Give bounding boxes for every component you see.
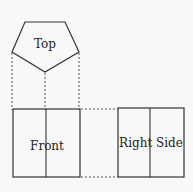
front-view: Front bbox=[13, 109, 80, 177]
projection-lines bbox=[12, 53, 118, 177]
top-view: Top bbox=[12, 22, 79, 72]
top-label: Top bbox=[34, 37, 56, 51]
diagram-canvas: Top Front Right Side bbox=[0, 0, 193, 192]
right-side-label: Right Side bbox=[119, 136, 183, 150]
right-side-view: Right Side bbox=[118, 108, 184, 177]
orthographic-diagram: Top Front Right Side bbox=[0, 0, 193, 192]
front-label: Front bbox=[30, 139, 64, 153]
